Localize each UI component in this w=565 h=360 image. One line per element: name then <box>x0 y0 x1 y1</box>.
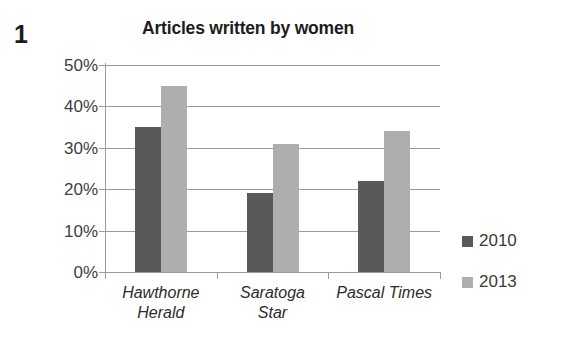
y-tick-label: 50% <box>40 56 98 76</box>
x-category-label-line: Herald <box>97 303 225 323</box>
chart-legend: 20102013 <box>462 231 557 313</box>
x-category-label-line: Saratoga <box>209 283 337 303</box>
y-tick-label: 30% <box>40 139 98 159</box>
legend-label: 2010 <box>479 231 517 251</box>
chart-figure: 1 Articles written by women 0%10%20%30%4… <box>0 0 565 360</box>
y-tick-label: 10% <box>40 222 98 242</box>
y-tick-mark <box>99 231 105 232</box>
legend-swatch-icon <box>462 236 473 247</box>
bar-2013-saratoga-star <box>273 144 299 272</box>
gridline-50% <box>105 65 440 66</box>
legend-item-2013[interactable]: 2013 <box>462 272 557 292</box>
bar-2010-saratoga-star <box>247 193 273 272</box>
x-category-label-line: Pascal Times <box>320 283 448 303</box>
y-tick-mark <box>99 189 105 190</box>
x-category-label-line: Hawthorne <box>97 283 225 303</box>
x-category-label: SaratogaStar <box>209 283 337 323</box>
y-axis-tick-labels: 0%10%20%30%40%50% <box>36 65 98 272</box>
x-category-label: Pascal Times <box>320 283 448 303</box>
bar-2013-hawthorne-herald <box>161 86 187 272</box>
x-tick-mark <box>328 272 329 279</box>
x-tick-mark <box>217 272 218 279</box>
y-tick-label: 40% <box>40 97 98 117</box>
chart-title: Articles written by women <box>78 18 418 39</box>
plot-area <box>105 65 440 272</box>
legend-label: 2013 <box>479 272 517 292</box>
question-number: 1 <box>14 20 27 49</box>
bar-2010-pascal-times <box>358 181 384 272</box>
legend-swatch-icon <box>462 277 473 288</box>
bar-2013-pascal-times <box>384 131 410 272</box>
y-tick-mark <box>99 148 105 149</box>
y-tick-mark <box>99 106 105 107</box>
y-tick-label: 0% <box>40 263 98 283</box>
legend-item-2010[interactable]: 2010 <box>462 231 557 251</box>
y-tick-mark <box>99 65 105 66</box>
x-tick-mark <box>440 272 441 279</box>
y-tick-label: 20% <box>40 180 98 200</box>
x-category-label: HawthorneHerald <box>97 283 225 323</box>
x-category-label-line: Star <box>209 303 337 323</box>
x-tick-mark <box>105 272 106 279</box>
gridline-40% <box>105 106 440 107</box>
bar-2010-hawthorne-herald <box>135 127 161 272</box>
gridline-0% <box>105 272 440 273</box>
